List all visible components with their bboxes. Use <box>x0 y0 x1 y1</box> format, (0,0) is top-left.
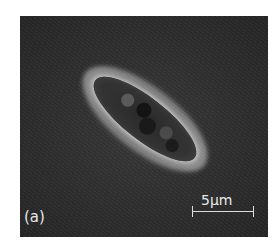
scale-bar <box>192 211 254 212</box>
panel-label: (a) <box>24 208 45 226</box>
micrograph: (a) 5µm <box>20 16 268 237</box>
scale-bar-label: 5µm <box>201 192 232 208</box>
scale-bar-tick-left <box>192 206 193 217</box>
scale-bar-tick-right <box>253 206 254 217</box>
